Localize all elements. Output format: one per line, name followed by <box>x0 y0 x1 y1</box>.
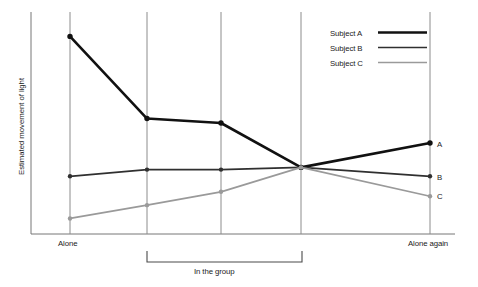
endpoint-label-b: B <box>437 173 442 182</box>
group-bracket <box>147 251 302 262</box>
data-point <box>145 203 149 207</box>
group-bracket-label: In the group <box>194 267 234 276</box>
data-point <box>145 167 149 171</box>
x-tick-label-alone: Alone <box>58 240 77 248</box>
data-point <box>219 167 223 171</box>
data-point <box>68 216 72 220</box>
series-line-c <box>70 167 430 218</box>
series-a <box>67 34 432 170</box>
series-layer <box>67 34 432 221</box>
gridlines <box>70 12 430 234</box>
legend-label-subject-c[interactable]: Subject C <box>330 59 363 68</box>
endpoint-label-c: C <box>437 192 443 201</box>
endpoint-label-a: A <box>437 140 442 149</box>
x-tick-label-alone-again: Alone again <box>408 240 448 248</box>
legend-label-subject-b[interactable]: Subject B <box>330 44 362 53</box>
data-point <box>428 194 432 198</box>
legend-label-subject-a[interactable]: Subject A <box>330 29 362 38</box>
data-point <box>219 190 223 194</box>
data-point <box>144 116 149 121</box>
data-point <box>299 165 303 169</box>
series-b <box>68 165 432 178</box>
data-point <box>68 174 72 178</box>
data-point <box>67 34 72 39</box>
data-point <box>427 140 432 145</box>
legend-sample-lines <box>378 33 427 63</box>
y-axis-title: Estimated movement of light <box>17 57 26 197</box>
chart-figure: Estimated movement of light Alone Alone … <box>0 0 478 287</box>
series-line-b <box>70 167 430 176</box>
data-point <box>428 174 432 178</box>
series-line-a <box>70 36 430 167</box>
data-point <box>218 120 223 125</box>
